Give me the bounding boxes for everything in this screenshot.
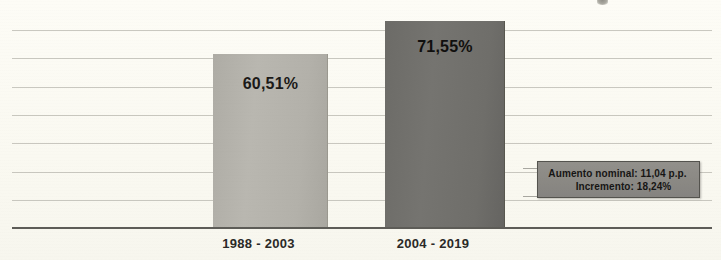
callout-nominal-increase-text: Aumento nominal: 11,04 p.p. — [548, 167, 688, 180]
callout-leader-line — [523, 196, 538, 197]
bar-chart: 60,51% 71,55% 1988 - 2003 2004 - 2019 Au… — [0, 0, 721, 260]
cropped-text-fragment — [597, 0, 608, 5]
comparison-callout[interactable]: Aumento nominal: 11,04 p.p. Incremento: … — [537, 161, 700, 198]
bar-1988-2003[interactable]: 60,51% — [213, 54, 328, 229]
callout-leader-line — [523, 168, 538, 169]
x-axis-line — [12, 227, 712, 229]
x-tick-label-1988-2003: 1988 - 2003 — [193, 236, 324, 251]
gridline — [12, 58, 712, 59]
gridline — [12, 143, 712, 144]
bar-value-label: 60,51% — [213, 75, 328, 93]
callout-relative-increase-text: Incremento: 18,24% — [566, 180, 672, 193]
bar-2004-2019[interactable]: 71,55% — [385, 21, 505, 229]
gridline — [12, 200, 712, 201]
gridline — [12, 30, 712, 31]
gridline — [12, 87, 712, 88]
x-tick-label-2004-2019: 2004 - 2019 — [365, 236, 501, 251]
bar-value-label: 71,55% — [385, 38, 505, 56]
gridline — [12, 115, 712, 116]
